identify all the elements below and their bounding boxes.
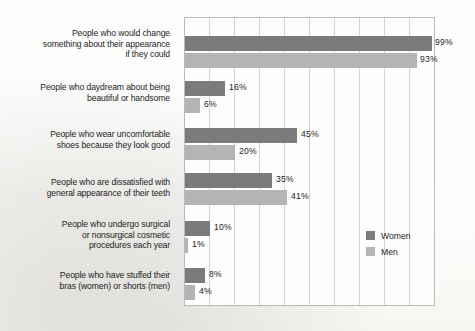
bar-women-3[interactable] (185, 173, 272, 188)
value-label-men-4: 1% (192, 239, 205, 249)
value-label-women-0: 99% (435, 37, 453, 47)
value-label-women-3: 35% (276, 174, 294, 184)
category-label-5: People who have stuffed their bras (wome… (0, 270, 170, 291)
category-label-4-line-1: or nonsurgical cosmetic (0, 230, 170, 241)
chart-page: People who would change something about … (0, 0, 475, 331)
bar-women-5[interactable] (185, 268, 205, 283)
category-label-4-line-2: procedures each year (0, 240, 170, 251)
category-label-4-line-0: People who undergo surgical (0, 219, 170, 230)
value-label-men-5: 4% (199, 286, 212, 296)
category-label-1-line-0: People who daydream about being (0, 82, 170, 93)
value-label-men-1: 6% (204, 99, 217, 109)
category-label-2: People who wear uncomfortable shoes beca… (0, 129, 170, 150)
bar-men-5[interactable] (185, 285, 195, 300)
value-label-men-3: 41% (291, 191, 309, 201)
bar-men-4[interactable] (185, 238, 188, 253)
category-label-1-line-1: beautiful or handsome (0, 93, 170, 104)
category-label-0-line-2: if they could (0, 49, 170, 60)
bar-men-1[interactable] (185, 98, 200, 113)
chart-legend: Women Men (366, 229, 410, 261)
category-label-0-line-0: People who would change (0, 28, 170, 39)
bar-men-3[interactable] (185, 190, 287, 205)
category-label-5-line-1: bras (women) or shorts (men) (0, 281, 170, 292)
plot-area: 99% 93% 16% 6% 45% 20% 35% 41% 10% 1% 8%… (184, 17, 435, 306)
bar-women-2[interactable] (185, 128, 297, 143)
legend-label-women: Women (381, 231, 410, 241)
bar-women-1[interactable] (185, 81, 225, 96)
category-label-4: People who undergo surgical or nonsurgic… (0, 219, 170, 251)
bar-women-4[interactable] (185, 221, 210, 236)
legend-swatch-men-icon (366, 247, 375, 256)
value-label-men-0: 93% (420, 54, 438, 64)
category-label-0-line-1: something about their appearance (0, 39, 170, 50)
value-label-men-2: 20% (239, 146, 257, 156)
category-label-3-line-1: general appearance of their teeth (0, 188, 170, 199)
legend-item-men[interactable]: Men (366, 245, 410, 258)
legend-label-men: Men (381, 247, 398, 257)
category-label-1: People who daydream about being beautifu… (0, 82, 170, 103)
value-label-women-5: 8% (209, 269, 222, 279)
bar-men-2[interactable] (185, 145, 235, 160)
category-label-3-line-0: People who are dissatisfied with (0, 177, 170, 188)
legend-item-women[interactable]: Women (366, 229, 410, 242)
category-label-2-line-0: People who wear uncomfortable (0, 129, 170, 140)
category-label-0: People who would change something about … (0, 28, 170, 60)
category-label-5-line-0: People who have stuffed their (0, 270, 170, 281)
category-label-2-line-1: shoes because they look good (0, 140, 170, 151)
bar-men-0[interactable] (185, 53, 417, 68)
bar-women-0[interactable] (185, 36, 432, 51)
category-label-3: People who are dissatisfied with general… (0, 177, 170, 198)
legend-swatch-women-icon (366, 231, 375, 240)
category-label-column: People who would change something about … (0, 14, 178, 304)
value-label-women-2: 45% (301, 129, 319, 139)
value-label-women-4: 10% (214, 222, 232, 232)
value-label-women-1: 16% (229, 82, 247, 92)
